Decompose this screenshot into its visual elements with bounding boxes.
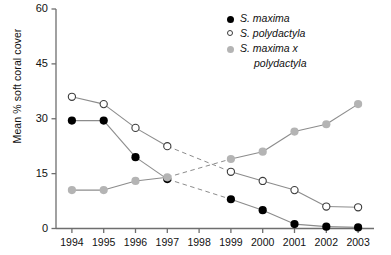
series-line-0 (167, 179, 231, 199)
series-line-1 (72, 97, 104, 104)
data-point (131, 153, 139, 161)
data-point (259, 206, 267, 214)
data-point (100, 101, 107, 108)
series-line-1 (231, 172, 263, 181)
data-point (100, 116, 108, 124)
series-line-1 (104, 104, 136, 128)
series-line-2 (104, 181, 136, 190)
legend-item-s-maxima-x-polydactyla: S. maxima x (226, 42, 386, 56)
data-point (323, 203, 330, 210)
data-point (227, 155, 235, 163)
legend-label-s-polydactyla: S. polydactyla (240, 27, 305, 40)
data-point (227, 168, 234, 175)
x-tick-2003: 2003 (336, 236, 380, 248)
series-line-0 (295, 224, 327, 227)
y-tick-0: 0 (18, 222, 48, 234)
data-point (354, 223, 362, 231)
data-point (290, 127, 298, 135)
data-point (100, 186, 108, 194)
series-line-2 (263, 132, 295, 152)
series-line-2 (326, 104, 358, 124)
legend-item-s-maxima: S. maxima (226, 12, 386, 26)
series-line-2 (136, 177, 168, 181)
data-point (68, 186, 76, 194)
data-point (227, 195, 235, 203)
series-line-0 (136, 157, 168, 179)
data-point (355, 204, 362, 211)
data-point (259, 148, 267, 156)
y-tick-60: 60 (18, 2, 48, 14)
data-series (68, 93, 362, 231)
data-point (322, 223, 330, 231)
data-point (290, 220, 298, 228)
series-line-0 (326, 227, 358, 228)
series-line-1 (326, 207, 358, 208)
data-point (259, 177, 266, 184)
y-axis-label: Mean % soft coral cover (11, 1, 23, 171)
series-line-0 (263, 210, 295, 224)
data-point (291, 186, 298, 193)
series-line-2 (295, 124, 327, 131)
chart-legend: S. maxima S. polydactyla S. maxima x pol… (226, 12, 386, 70)
soft-coral-cover-figure: Mean % soft coral cover 015304560 199419… (0, 0, 391, 255)
data-point (164, 143, 171, 150)
y-tick-30: 30 (18, 112, 48, 124)
series-line-2 (231, 152, 263, 159)
data-point (132, 124, 139, 131)
gray-circle-icon (226, 42, 240, 55)
series-line-1 (263, 181, 295, 190)
data-point (68, 93, 75, 100)
series-line-0 (104, 121, 136, 158)
series-line-0 (231, 199, 263, 210)
legend-label-s-maxima: S. maxima (240, 12, 290, 25)
data-point (68, 116, 76, 124)
filled-circle-icon (226, 12, 240, 25)
open-circle-icon (226, 27, 240, 40)
series-line-1 (136, 128, 168, 146)
data-point (131, 177, 139, 185)
legend-item-s-polydactyla: S. polydactyla (226, 27, 386, 41)
y-tick-45: 45 (18, 57, 48, 69)
series-line-1 (295, 190, 327, 206)
data-point (354, 100, 362, 108)
data-point (163, 173, 171, 181)
legend-label-hybrid: S. maxima x (240, 42, 298, 55)
y-tick-15: 15 (18, 167, 48, 179)
legend-label-hybrid-continued: polydactyla (254, 57, 386, 70)
data-point (322, 120, 330, 128)
